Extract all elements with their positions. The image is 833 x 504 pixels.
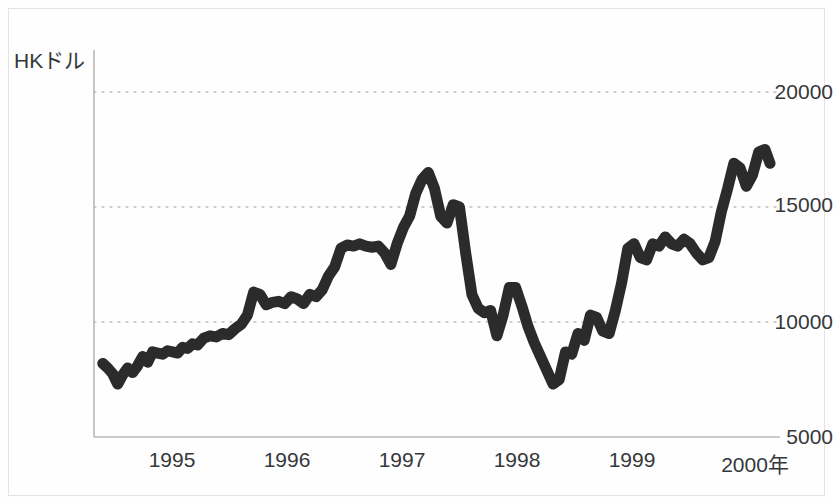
chart-figure: HKドル 20000 15000 10000 5000 1995 1996 19… <box>0 0 833 504</box>
chart-plot-area <box>0 0 833 504</box>
data-series-line <box>103 150 770 385</box>
